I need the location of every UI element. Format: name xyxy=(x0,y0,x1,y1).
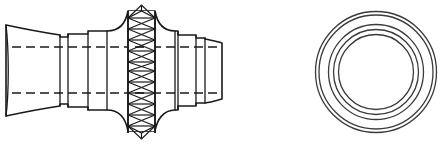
drawing-canvas xyxy=(0,0,444,145)
side-elevation-view xyxy=(6,5,222,139)
corrugated-bellows-section xyxy=(128,5,155,139)
end-view xyxy=(316,12,437,133)
engineering-drawing xyxy=(0,0,444,145)
left-flared-end xyxy=(6,11,222,131)
